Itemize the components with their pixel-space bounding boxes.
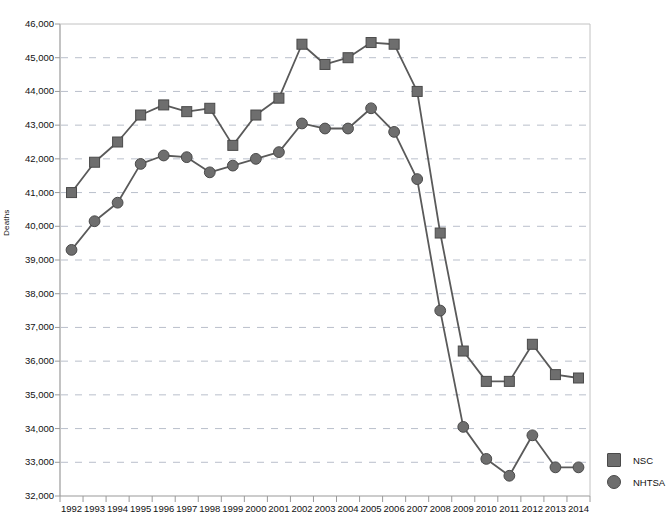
data-point-nhtsa-1997 xyxy=(181,152,192,163)
data-point-nhtsa-2004 xyxy=(343,123,354,134)
data-point-nhtsa-2007 xyxy=(412,174,423,185)
x-tick-label: 2004 xyxy=(337,503,358,514)
y-tick-label: 35,000 xyxy=(6,389,54,400)
deaths-line-chart: Deaths 32,00033,00034,00035,00036,00037,… xyxy=(0,0,671,526)
data-point-nsc-2014 xyxy=(573,373,583,383)
x-tick-label: 1998 xyxy=(199,503,220,514)
data-point-nhtsa-2000 xyxy=(250,153,261,164)
x-tick-label: 2002 xyxy=(291,503,312,514)
y-tick-label: 44,000 xyxy=(6,85,54,96)
data-point-nsc-2013 xyxy=(550,370,560,380)
x-tick-label: 2012 xyxy=(522,503,543,514)
y-tick-label: 36,000 xyxy=(6,355,54,366)
x-tick-marks xyxy=(60,496,590,502)
y-tick-label: 42,000 xyxy=(6,153,54,164)
x-tick-label: 2005 xyxy=(361,503,382,514)
data-point-nsc-2009 xyxy=(458,346,468,356)
data-point-nhtsa-2006 xyxy=(389,126,400,137)
data-point-nhtsa-2014 xyxy=(573,462,584,473)
data-point-nsc-2010 xyxy=(481,376,491,386)
chart-legend: NSC NHTSA xyxy=(607,449,665,493)
data-point-nsc-2000 xyxy=(251,110,261,120)
data-point-nsc-2012 xyxy=(527,339,537,349)
y-tick-label: 39,000 xyxy=(6,254,54,265)
x-tick-label: 1994 xyxy=(107,503,128,514)
data-point-nsc-2005 xyxy=(366,38,376,48)
x-tick-label: 2014 xyxy=(568,503,589,514)
y-tick-label: 38,000 xyxy=(6,288,54,299)
data-point-nhtsa-2001 xyxy=(274,147,285,158)
x-tick-label: 2001 xyxy=(268,503,289,514)
data-point-nhtsa-1992 xyxy=(66,244,77,255)
legend-item-nsc: NSC xyxy=(607,449,665,471)
data-point-nsc-2002 xyxy=(297,39,307,49)
data-point-nsc-2006 xyxy=(389,39,399,49)
data-point-nhtsa-1993 xyxy=(89,216,100,227)
data-point-nhtsa-1999 xyxy=(227,160,238,171)
x-tick-label: 1997 xyxy=(176,503,197,514)
data-point-nhtsa-1994 xyxy=(112,197,123,208)
data-point-nsc-2007 xyxy=(412,86,422,96)
data-point-nsc-2011 xyxy=(504,376,514,386)
data-point-nsc-1999 xyxy=(228,140,238,150)
y-tick-label: 40,000 xyxy=(6,220,54,231)
x-tick-label: 1993 xyxy=(84,503,105,514)
data-point-nhtsa-1996 xyxy=(158,150,169,161)
data-point-nsc-2001 xyxy=(274,93,284,103)
legend-item-nhtsa: NHTSA xyxy=(607,471,665,493)
y-tick-label: 43,000 xyxy=(6,119,54,130)
data-point-nsc-1997 xyxy=(182,107,192,117)
y-tick-label: 41,000 xyxy=(6,187,54,198)
nsc-square-marker-icon xyxy=(607,453,621,467)
x-tick-label: 1996 xyxy=(153,503,174,514)
x-tick-label: 2011 xyxy=(499,503,519,514)
data-point-nhtsa-1998 xyxy=(204,167,215,178)
data-point-nhtsa-1995 xyxy=(135,159,146,170)
x-tick-label: 1995 xyxy=(130,503,151,514)
data-point-nhtsa-2009 xyxy=(458,421,469,432)
x-tick-label: 2009 xyxy=(453,503,474,514)
data-point-nsc-1995 xyxy=(136,110,146,120)
plot-area xyxy=(0,0,671,526)
nhtsa-circle-marker-icon xyxy=(607,475,621,489)
data-point-nhtsa-2008 xyxy=(435,305,446,316)
x-tick-label: 2000 xyxy=(245,503,266,514)
y-tick-label: 33,000 xyxy=(6,456,54,467)
data-point-nsc-1996 xyxy=(159,100,169,110)
data-point-nsc-1994 xyxy=(113,137,123,147)
data-point-nsc-2003 xyxy=(320,59,330,69)
data-point-nsc-1992 xyxy=(67,188,77,198)
data-point-nsc-2004 xyxy=(343,53,353,63)
data-point-nsc-2008 xyxy=(435,228,445,238)
y-tick-label: 32,000 xyxy=(6,490,54,501)
x-tick-label: 2006 xyxy=(384,503,405,514)
y-tick-label: 37,000 xyxy=(6,321,54,332)
y-tick-label: 45,000 xyxy=(6,52,54,63)
x-tick-label: 2007 xyxy=(407,503,428,514)
x-tick-label: 2008 xyxy=(430,503,451,514)
data-point-nhtsa-2013 xyxy=(550,462,561,473)
x-tick-label: 2010 xyxy=(476,503,497,514)
legend-label-nsc: NSC xyxy=(633,455,653,466)
data-point-nhtsa-2011 xyxy=(504,470,515,481)
y-tick-label: 46,000 xyxy=(6,18,54,29)
x-tick-label: 1992 xyxy=(61,503,82,514)
x-tick-label: 2013 xyxy=(545,503,566,514)
data-point-nhtsa-2003 xyxy=(320,123,331,134)
data-point-nhtsa-2002 xyxy=(297,118,308,129)
legend-label-nhtsa: NHTSA xyxy=(633,477,665,488)
data-point-nhtsa-2012 xyxy=(527,430,538,441)
y-tick-label: 34,000 xyxy=(6,423,54,434)
y-tick-marks xyxy=(55,24,60,496)
x-tick-label: 1999 xyxy=(222,503,243,514)
data-point-nsc-1998 xyxy=(205,103,215,113)
data-point-nhtsa-2005 xyxy=(366,103,377,114)
data-point-nhtsa-2010 xyxy=(481,454,492,465)
x-tick-label: 2003 xyxy=(314,503,335,514)
data-point-nsc-1993 xyxy=(90,157,100,167)
